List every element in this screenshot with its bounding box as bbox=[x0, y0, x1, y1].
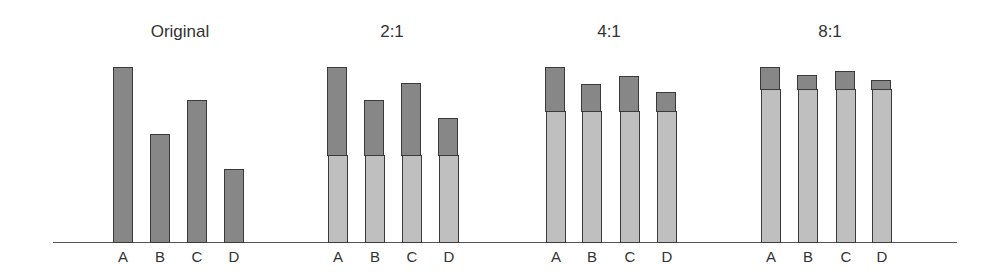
bar-scaled-c bbox=[619, 76, 639, 112]
bar-scaled-a bbox=[760, 67, 780, 90]
bar-base-b bbox=[365, 155, 385, 244]
bar-scaled-d bbox=[438, 118, 458, 156]
bar-base-c bbox=[836, 89, 856, 243]
category-label: C bbox=[836, 248, 856, 265]
bar-base-c bbox=[620, 111, 640, 243]
bar-scaled-b bbox=[797, 75, 817, 90]
category-label: D bbox=[439, 248, 459, 265]
bar-base-a bbox=[761, 89, 781, 243]
bar-base-d bbox=[657, 111, 677, 243]
category-label: B bbox=[365, 248, 385, 265]
category-label: D bbox=[872, 248, 892, 265]
category-label: C bbox=[187, 248, 207, 265]
chart-stage: OriginalABCD2:1ABCD4:1ABCD8:1ABCD bbox=[0, 0, 986, 273]
bar-scaled-c bbox=[401, 83, 421, 156]
category-label: A bbox=[113, 248, 133, 265]
bar-scaled-b bbox=[364, 100, 384, 155]
bar-scaled-c bbox=[835, 71, 855, 90]
panel-title: 2:1 bbox=[332, 22, 452, 42]
bar-value-b bbox=[150, 134, 170, 244]
bar-scaled-d bbox=[656, 92, 676, 111]
category-label: D bbox=[657, 248, 677, 265]
bar-scaled-a bbox=[545, 67, 565, 112]
bar-scaled-b bbox=[581, 84, 601, 112]
category-label: B bbox=[798, 248, 818, 265]
bar-base-a bbox=[328, 155, 348, 244]
panel-title: 8:1 bbox=[770, 22, 890, 42]
bar-scaled-d bbox=[871, 80, 891, 90]
panel-title: Original bbox=[120, 22, 240, 42]
category-label: A bbox=[546, 248, 566, 265]
category-label: B bbox=[150, 248, 170, 265]
bar-base-a bbox=[546, 111, 566, 243]
category-label: A bbox=[328, 248, 348, 265]
bar-value-d bbox=[224, 169, 244, 244]
bar-base-b bbox=[798, 89, 818, 243]
bar-scaled-a bbox=[327, 67, 347, 156]
category-label: B bbox=[582, 248, 602, 265]
bar-base-d bbox=[872, 89, 892, 243]
panel-title: 4:1 bbox=[549, 22, 669, 42]
bar-base-b bbox=[582, 111, 602, 243]
category-label: D bbox=[224, 248, 244, 265]
bar-base-d bbox=[439, 155, 459, 244]
category-label: C bbox=[402, 248, 422, 265]
bar-value-c bbox=[187, 100, 207, 243]
category-label: C bbox=[620, 248, 640, 265]
bar-base-c bbox=[402, 155, 422, 244]
category-label: A bbox=[761, 248, 781, 265]
bar-value-a bbox=[113, 67, 133, 243]
